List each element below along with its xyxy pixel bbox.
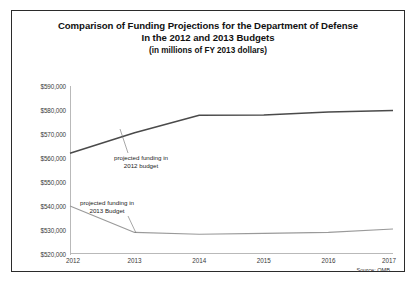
x-tick-label: 2017	[382, 257, 396, 264]
chart-units-note: (in millions of FY 2013 dollars)	[12, 45, 404, 57]
annotation-2012-line-1: projected funding in	[114, 154, 168, 162]
x-tick-label: 2015	[257, 257, 271, 264]
y-tick-label: $540,000	[41, 203, 66, 210]
x-tick-label: 2016	[321, 257, 335, 264]
y-axis-labels: $520,000$530,000$540,000$550,000$560,000…	[12, 86, 66, 254]
plot-area	[70, 86, 393, 254]
y-tick-label: $590,000	[41, 83, 66, 90]
series-line	[70, 110, 393, 153]
annotation-2013-line-1: projected funding in	[80, 199, 134, 207]
y-tick-label: $520,000	[41, 251, 66, 258]
y-tick-label: $570,000	[41, 131, 66, 138]
chart-subtitle: In the 2012 and 2013 Budgets	[12, 32, 404, 44]
annotation-2012-line-2: 2012 budget	[114, 162, 168, 170]
y-tick-label: $550,000	[41, 179, 66, 186]
y-tick-label: $560,000	[41, 155, 66, 162]
x-tick-label: 2014	[192, 257, 206, 264]
annotation-2013-budget: projected funding in 2013 Budget	[80, 199, 134, 215]
annotation-2013-line-2: 2013 Budget	[80, 207, 134, 215]
page-title: Comparison of Funding Projections for th…	[12, 20, 404, 32]
chart-figure: Comparison of Funding Projections for th…	[11, 10, 405, 272]
y-tick-label: $530,000	[41, 227, 66, 234]
source-note: Source: OMB	[356, 267, 390, 273]
x-tick-label: 2012	[66, 257, 80, 264]
annotation-2012-budget: projected funding in 2012 budget	[114, 154, 168, 170]
annotation-leader-line	[120, 129, 128, 153]
x-tick-label: 2013	[128, 257, 142, 264]
chart-title-block: Comparison of Funding Projections for th…	[12, 20, 404, 57]
x-axis-labels: 201220132014201520162017	[70, 257, 393, 269]
y-tick-label: $580,000	[41, 107, 66, 114]
series-layer	[70, 86, 393, 254]
